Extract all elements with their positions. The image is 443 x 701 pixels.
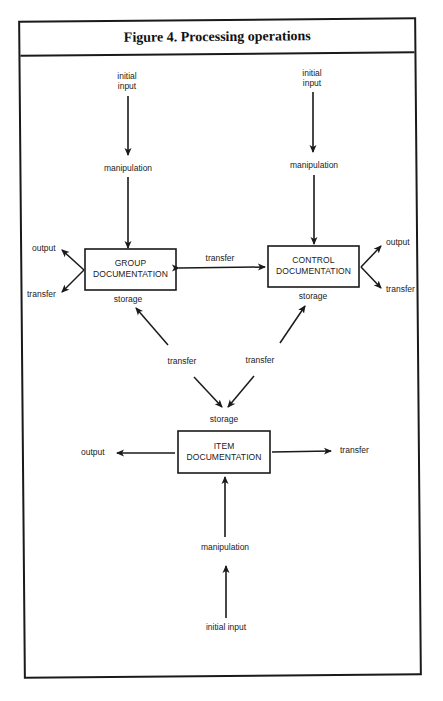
group-transfer-arrow <box>62 270 84 292</box>
right-down-transfer-arrow <box>228 376 254 407</box>
item-manipulation-label: manipulation <box>201 542 249 552</box>
figure-page: Figure 4. Processing operations initial … <box>0 0 443 701</box>
group-storage-label: storage <box>114 294 143 304</box>
control-transfer-label: transfer <box>386 284 415 294</box>
control-transfer-arrow <box>361 267 381 288</box>
svg-text:input: input <box>118 81 137 91</box>
svg-text:input: input <box>303 78 322 88</box>
item-box-line1: ITEM <box>214 441 235 451</box>
group-output-arrow <box>62 250 84 270</box>
item-storage-label: storage <box>210 414 239 424</box>
right-up-transfer-arrow <box>280 306 305 343</box>
control-output-label: output <box>386 237 410 247</box>
group-control-transfer-arrow <box>179 267 265 268</box>
left-transfer-label: transfer <box>168 356 197 366</box>
svg-text:initial: initial <box>117 71 136 81</box>
svg-text:initial: initial <box>302 68 321 78</box>
group-initial-input-label: initial input <box>117 71 137 91</box>
group-box-line1: GROUP <box>115 258 147 268</box>
item-initial-input-label: initial input <box>206 622 247 632</box>
group-transfer-label: transfer <box>27 289 56 299</box>
group-box-line2: DOCUMENTATION <box>93 269 168 279</box>
item-transfer-arrow <box>272 451 331 452</box>
left-down-transfer-arrow <box>194 377 222 407</box>
group-output-label: output <box>32 243 56 253</box>
item-output-label: output <box>81 447 105 457</box>
control-output-arrow <box>361 246 381 267</box>
control-manipulation-label: manipulation <box>290 160 338 170</box>
left-up-transfer-arrow <box>136 308 168 345</box>
item-box-line2: DOCUMENTATION <box>186 452 261 462</box>
control-box-line2: DOCUMENTATION <box>276 266 351 276</box>
item-transfer-label: transfer <box>340 445 369 455</box>
processing-diagram: initial input manipulation GROUP DOCUMEN… <box>0 0 443 701</box>
control-storage-label: storage <box>299 291 328 301</box>
right-transfer-label: transfer <box>246 355 275 365</box>
control-box-line1: CONTROL <box>292 255 334 265</box>
group-manipulation-label: manipulation <box>104 163 152 173</box>
between-transfer-label: transfer <box>206 253 235 263</box>
control-initial-input-label: initial input <box>302 68 322 88</box>
